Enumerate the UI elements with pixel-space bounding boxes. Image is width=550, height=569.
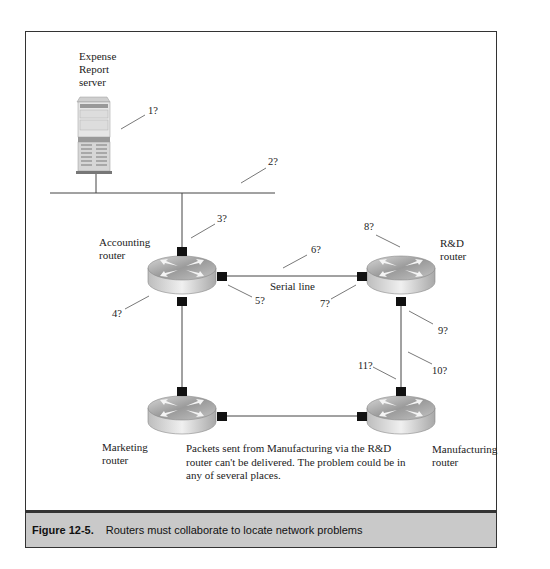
rd-router-icon (367, 256, 435, 294)
accounting-router-icon (148, 256, 216, 294)
diagram-note: Packets sent from Manufacturing via the … (186, 442, 406, 483)
problem-point-4: 4? (112, 308, 122, 319)
serial-line-label: Serial line (270, 280, 315, 293)
problem-point-5: 5? (255, 295, 265, 306)
marketing-router-icon (148, 396, 216, 434)
network-links (50, 174, 401, 416)
problem-point-1: 1? (148, 105, 158, 116)
problem-point-8: 8? (364, 221, 374, 232)
accounting-router-label: Accounting router (99, 236, 150, 262)
problem-point-11: 11? (358, 360, 373, 371)
problem-point-7: 7? (320, 298, 330, 309)
problem-point-2: 2? (268, 156, 278, 167)
problem-pointer-lines (121, 115, 433, 379)
problem-point-9: 9? (438, 325, 448, 336)
figure-caption-bar: Figure 12-5. Routers must collaborate to… (25, 511, 497, 548)
problem-point-3: 3? (217, 213, 227, 224)
marketing-router-label: Marketing router (102, 441, 148, 467)
rd-router-label: R&D router (440, 237, 466, 263)
problem-point-6: 6? (311, 244, 321, 255)
problem-point-10: 10? (432, 365, 447, 376)
manufacturing-router-label: Manufacturing router (432, 443, 497, 469)
figure-caption-text: Routers must collaborate to locate netwo… (106, 524, 363, 536)
server-icon (76, 97, 112, 174)
manufacturing-router-icon (367, 396, 435, 434)
figure-number: Figure 12-5. (32, 524, 94, 536)
server-label: Expense Report server (79, 50, 116, 89)
